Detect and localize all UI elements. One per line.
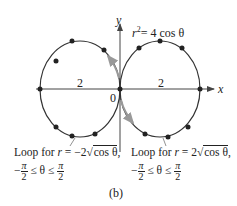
left-loop-caption: Loop for r = −2√cos θ, bbox=[14, 147, 120, 159]
right-loop-caption: Loop for r = 2√cos θ, bbox=[131, 147, 231, 159]
left-radius-label: 2 bbox=[77, 77, 83, 89]
equation-label: r2= 4 cos θ bbox=[132, 26, 184, 39]
leader-right bbox=[163, 138, 166, 146]
figure-caption: (b) bbox=[109, 187, 123, 199]
origin-label: 0 bbox=[110, 92, 116, 104]
leader-left bbox=[70, 138, 75, 146]
left-loop-range: −π2 ≤ θ ≤ π2 bbox=[14, 161, 64, 182]
right-loop-range: −π2 ≤ θ ≤ π2 bbox=[131, 161, 181, 182]
right-radius-label: 2 bbox=[158, 77, 164, 89]
direction-arrow-lower bbox=[121, 100, 133, 123]
y-axis-label: y bbox=[116, 14, 121, 26]
x-axis-label: x bbox=[218, 83, 223, 95]
origin-point bbox=[118, 87, 123, 92]
direction-arrow-upper bbox=[108, 56, 119, 78]
